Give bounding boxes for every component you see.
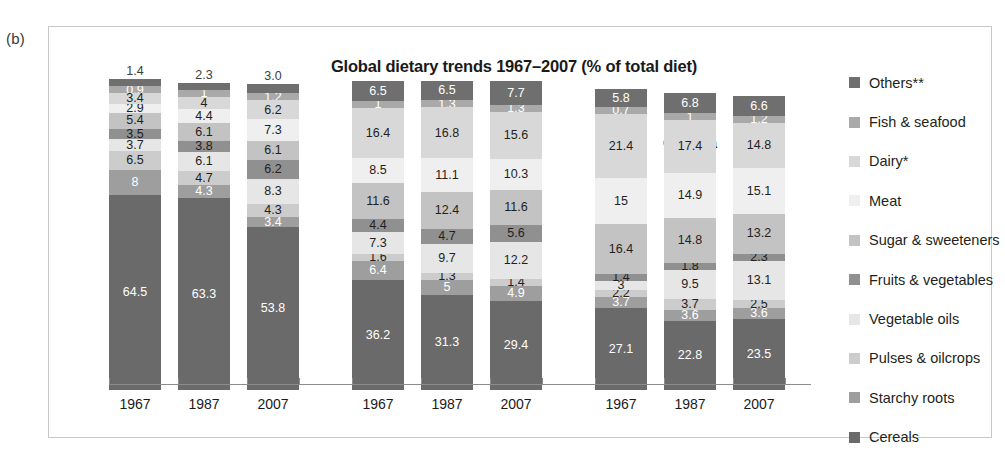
stacked-bar[interactable]: 6.61.214.815.113.22.313.12.53.623.5 — [733, 96, 785, 390]
bar-europe-1967[interactable]: 6.5116.48.511.64.47.31.66.436.2 — [352, 67, 404, 390]
bar-oceania-2007[interactable]: 6.61.214.815.113.22.313.12.53.623.5 — [733, 82, 785, 390]
bar-segment[interactable]: 4 — [178, 97, 230, 109]
bar-asia-1987[interactable]: 2.3144.46.13.86.14.74.363.3 — [178, 69, 230, 390]
bar-segment[interactable]: 31.3 — [421, 295, 473, 390]
bar-segment[interactable]: 5.8 — [595, 89, 647, 107]
bar-segment[interactable]: 11.1 — [421, 158, 473, 192]
bar-asia-2007[interactable]: 3.01.26.27.36.16.28.34.33.453.8 — [247, 70, 299, 390]
bar-segment[interactable]: 23.5 — [733, 319, 785, 390]
bar-segment[interactable]: 22.8 — [664, 321, 716, 390]
bar-segment[interactable]: 1.3 — [421, 100, 473, 107]
bar-segment[interactable]: 1.8 — [664, 263, 716, 270]
bar-segment[interactable] — [109, 79, 161, 86]
stacked-bar[interactable]: 144.46.13.86.14.74.363.3 — [178, 83, 230, 390]
stacked-bar[interactable]: 1.26.27.36.16.28.34.33.453.8 — [247, 84, 299, 390]
bar-segment[interactable]: 5.6 — [490, 225, 542, 242]
bar-segment[interactable]: 7.7 — [490, 81, 542, 104]
bar-segment[interactable]: 1.4 — [595, 274, 647, 281]
legend-item-meat[interactable]: Meat — [849, 181, 1005, 220]
stacked-bar[interactable]: 6.8117.414.914.81.89.53.73.622.8 — [664, 93, 716, 390]
bar-segment[interactable]: 7.3 — [247, 119, 299, 141]
bar-segment[interactable]: 16.8 — [421, 107, 473, 158]
legend-item-fruits-vegetables[interactable]: Fruits & vegetables — [849, 260, 1005, 299]
bar-segment[interactable]: 6.8 — [664, 93, 716, 114]
bar-segment[interactable] — [178, 83, 230, 90]
bar-segment[interactable]: 21.4 — [595, 114, 647, 179]
bar-asia-1967[interactable]: 1.40.93.42.95.43.53.76.5864.5 — [109, 65, 161, 390]
bar-segment[interactable]: 3.7 — [664, 299, 716, 310]
bar-segment[interactable]: 6.1 — [247, 141, 299, 159]
bar-segment[interactable]: 3.6 — [733, 308, 785, 319]
bar-segment[interactable]: 1 — [178, 90, 230, 97]
bar-segment[interactable]: 4.9 — [490, 286, 542, 301]
bar-segment[interactable]: 6.4 — [352, 261, 404, 280]
bar-segment[interactable]: 16.4 — [352, 108, 404, 158]
bar-segment[interactable]: 6.1 — [178, 123, 230, 141]
bar-segment[interactable]: 3.5 — [109, 129, 161, 140]
bar-segment[interactable]: 2.5 — [733, 300, 785, 308]
bar-segment[interactable]: 36.2 — [352, 280, 404, 390]
bar-segment[interactable]: 1 — [664, 113, 716, 120]
bar-segment[interactable]: 6.5 — [421, 81, 473, 101]
bar-segment[interactable]: 4.7 — [178, 171, 230, 185]
bar-segment[interactable]: 8 — [109, 170, 161, 194]
bar-segment[interactable]: 4.3 — [178, 185, 230, 198]
bar-segment[interactable]: 7.3 — [352, 232, 404, 254]
bar-segment[interactable]: 11.6 — [352, 183, 404, 218]
bar-segment[interactable]: 3.4 — [247, 217, 299, 227]
bar-europe-1987[interactable]: 6.51.316.811.112.44.79.71.3531.3 — [421, 67, 473, 390]
bar-segment[interactable]: 0.9 — [109, 86, 161, 93]
legend-item-fish-seafood[interactable]: Fish & seafood — [849, 102, 1005, 141]
bar-europe-2007[interactable]: 7.71.315.610.311.65.612.21.44.929.4 — [490, 67, 542, 390]
bar-oceania-1987[interactable]: 6.8117.414.914.81.89.53.73.622.8 — [664, 79, 716, 390]
bar-segment[interactable]: 1.3 — [421, 273, 473, 280]
bar-segment[interactable]: 8.3 — [247, 179, 299, 204]
bar-segment[interactable]: 1.2 — [247, 93, 299, 100]
bar-segment[interactable]: 12.4 — [421, 192, 473, 230]
bar-segment[interactable]: 15 — [595, 178, 647, 223]
bar-oceania-1967[interactable]: 5.80.721.41516.41.432.23.727.1 — [595, 75, 647, 390]
bar-segment[interactable]: 15.6 — [490, 112, 542, 159]
bar-segment[interactable]: 1.6 — [352, 254, 404, 261]
bar-segment[interactable]: 10.3 — [490, 159, 542, 190]
legend-item-dairy[interactable]: Dairy* — [849, 142, 1005, 181]
bar-segment[interactable] — [247, 84, 299, 93]
stacked-bar[interactable]: 0.93.42.95.43.53.76.5864.5 — [109, 79, 161, 390]
bar-segment[interactable]: 5.4 — [109, 113, 161, 129]
bar-segment[interactable]: 1.2 — [733, 116, 785, 123]
bar-segment[interactable]: 15.1 — [733, 168, 785, 214]
bar-segment[interactable]: 1.4 — [490, 279, 542, 286]
bar-segment[interactable]: 29.4 — [490, 301, 542, 390]
bar-segment[interactable]: 8.5 — [352, 158, 404, 184]
bar-segment[interactable]: 0.7 — [595, 107, 647, 114]
bar-segment[interactable]: 4.3 — [247, 204, 299, 217]
legend-item-pulses-oilcrops[interactable]: Pulses & oilcrops — [849, 339, 1005, 378]
bar-segment[interactable]: 11.6 — [490, 190, 542, 225]
bar-segment[interactable]: 6.2 — [247, 160, 299, 179]
bar-segment[interactable]: 13.1 — [733, 261, 785, 301]
bar-segment[interactable]: 14.9 — [664, 173, 716, 218]
bar-segment[interactable]: 14.8 — [733, 123, 785, 168]
bar-segment[interactable]: 2.3 — [733, 254, 785, 261]
bar-segment[interactable]: 3.6 — [664, 310, 716, 321]
bar-segment[interactable]: 12.2 — [490, 242, 542, 279]
bar-segment[interactable]: 6.2 — [247, 100, 299, 119]
bar-segment[interactable]: 6.6 — [733, 96, 785, 116]
legend-item-sugar-sweeteners[interactable]: Sugar & sweeteners — [849, 221, 1005, 260]
bar-segment[interactable]: 16.4 — [595, 224, 647, 274]
legend-item-others[interactable]: Others** — [849, 63, 1005, 102]
bar-segment[interactable]: 6.5 — [352, 81, 404, 101]
bar-segment[interactable]: 17.4 — [664, 120, 716, 173]
bar-segment[interactable]: 4.7 — [421, 229, 473, 243]
stacked-bar[interactable]: 7.71.315.610.311.65.612.21.44.929.4 — [490, 81, 542, 390]
bar-segment[interactable]: 3 — [595, 281, 647, 290]
bar-segment[interactable]: 3.7 — [595, 297, 647, 308]
bar-segment[interactable]: 5 — [421, 280, 473, 295]
bar-segment[interactable]: 6.5 — [109, 151, 161, 171]
bar-segment[interactable]: 14.8 — [664, 218, 716, 263]
bar-segment[interactable]: 13.2 — [733, 214, 785, 254]
bar-segment[interactable]: 4.4 — [352, 219, 404, 232]
legend-item-vegetable-oils[interactable]: Vegetable oils — [849, 299, 1005, 338]
bar-segment[interactable]: 64.5 — [109, 195, 161, 390]
bar-segment[interactable]: 53.8 — [247, 227, 299, 390]
